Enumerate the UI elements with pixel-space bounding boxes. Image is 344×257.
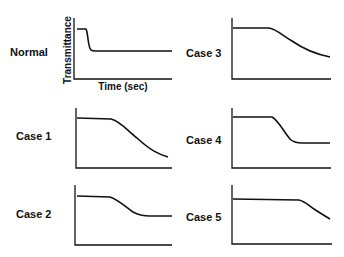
axes (76, 108, 172, 168)
panel-case4: Case 4 (186, 108, 331, 168)
x-axis-label: Time (sec) (98, 81, 147, 92)
transmittance-curves-figure: Normal Transmittance Time (sec) Case 3 C… (0, 0, 344, 257)
panel-case5: Case 5 (186, 185, 332, 244)
axes (232, 18, 331, 79)
transmittance-curve (233, 28, 330, 57)
panel-case1: Case 1 (16, 108, 172, 168)
panel-label-case2: Case 2 (16, 208, 51, 220)
panel-label-case5: Case 5 (186, 211, 221, 223)
transmittance-curve (77, 118, 168, 157)
axes (74, 18, 172, 79)
axes (232, 185, 332, 244)
transmittance-curve (77, 29, 172, 51)
panel-normal: Normal Transmittance Time (sec) (10, 16, 172, 92)
panel-label-case4: Case 4 (186, 134, 222, 146)
panel-case2: Case 2 (16, 185, 172, 245)
panel-label-case3: Case 3 (186, 47, 221, 59)
panel-case3: Case 3 (186, 18, 331, 79)
transmittance-curve (233, 117, 330, 143)
panel-label-normal: Normal (10, 46, 48, 58)
transmittance-curve (77, 196, 172, 216)
y-axis-label: Transmittance (62, 16, 73, 84)
transmittance-curve (233, 199, 330, 219)
panel-label-case1: Case 1 (16, 130, 51, 142)
axes (75, 185, 172, 245)
